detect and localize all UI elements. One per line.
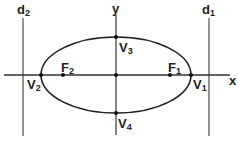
directrix-d1-label: d1 (202, 2, 215, 18)
vertex-v3-point (114, 35, 118, 39)
ellipse-diagram: y x d2 d1 V3 V4 V2 V1 F2 F1 (0, 0, 238, 142)
y-axis-label: y (112, 1, 120, 16)
vertex-v2-point (39, 73, 43, 77)
vertex-v1-label: V1 (193, 77, 207, 93)
vertex-v4-label: V4 (118, 116, 132, 132)
vertex-v4-point (114, 111, 118, 115)
focus-f1-label: F1 (168, 60, 181, 76)
origin-point (114, 73, 118, 77)
x-axis-label: x (229, 73, 237, 88)
directrix-d2-label: d2 (17, 2, 30, 18)
vertex-v2-label: V2 (27, 77, 41, 93)
vertex-v3-label: V3 (119, 40, 133, 56)
focus-f2-label: F2 (61, 60, 74, 76)
